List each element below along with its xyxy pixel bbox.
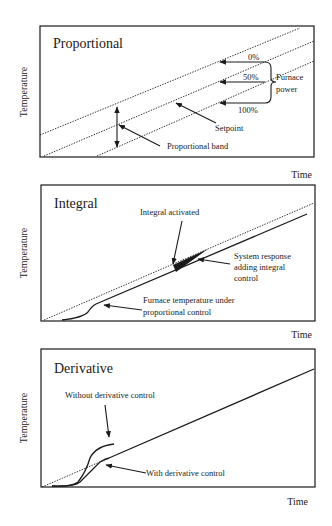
proportional-x-axis-label: Time	[291, 169, 312, 180]
integral-panel: Integral Temperature Time Integral activ…	[18, 185, 315, 340]
without-derivative-arrow	[105, 405, 109, 437]
label-integral-activated: Integral activated	[140, 207, 200, 217]
integral-y-axis-label: Temperature	[18, 227, 29, 278]
integral-title: Integral	[54, 196, 98, 211]
label-100-percent: 100%	[238, 105, 258, 115]
label-adding-integral: adding integral	[234, 262, 286, 272]
label-power: power	[276, 84, 297, 94]
proportional-panel: Proportional Temperature Time 0% 50% 100…	[18, 26, 314, 180]
integral-x-axis-label: Time	[291, 329, 312, 340]
system-response-arrow	[198, 259, 230, 264]
derivative-y-axis-label: Temperature	[18, 392, 29, 443]
pid-control-diagram: Proportional Temperature Time 0% 50% 100…	[0, 0, 332, 526]
label-control: control	[234, 273, 259, 283]
derivative-title: Derivative	[54, 361, 113, 376]
label-system-response: System response	[234, 251, 291, 261]
derivative-x-axis-label: Time	[287, 496, 308, 507]
setpoint-line	[44, 41, 314, 156]
derivative-panel: Derivative Temperature Time Without deri…	[18, 349, 315, 507]
proportional-band-arrow	[119, 125, 160, 146]
label-0-percent: 0%	[248, 52, 259, 62]
label-furnace-temperature: Furnace temperature under	[143, 295, 235, 305]
label-furnace: Furnace	[276, 72, 304, 82]
derivative-ramp-line	[109, 369, 314, 458]
proportional-y-axis-label: Temperature	[18, 66, 29, 117]
furnace-temperature-arrow	[104, 305, 142, 310]
setpoint-arrow	[176, 103, 216, 123]
label-proportional-band: Proportional band	[167, 141, 229, 151]
label-proportional-control: proportional control	[143, 307, 212, 317]
integral-activated-arrow	[173, 221, 182, 264]
label-50-percent: 50%	[243, 72, 259, 82]
with-derivative-arrow	[106, 465, 146, 473]
label-with-derivative: With derivative control	[146, 468, 226, 478]
furnace-power-brace	[265, 62, 276, 103]
label-setpoint: Setpoint	[215, 123, 244, 133]
label-without-derivative: Without derivative control	[65, 390, 155, 400]
with-derivative-curve	[52, 458, 109, 486]
proportional-title: Proportional	[53, 36, 123, 51]
integral-response-wedge	[173, 249, 208, 272]
